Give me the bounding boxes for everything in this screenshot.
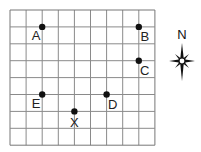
point-label: D xyxy=(108,97,117,112)
grid-map: ABCDEX N xyxy=(0,0,201,152)
point-label: C xyxy=(140,63,149,78)
compass-north-label: N xyxy=(177,27,186,42)
compass-rose-icon: N xyxy=(169,27,195,81)
point-label: E xyxy=(32,96,41,111)
point-label: A xyxy=(32,28,41,43)
point-label: B xyxy=(140,29,149,44)
point-marker xyxy=(71,108,77,114)
point-label: X xyxy=(70,115,79,130)
